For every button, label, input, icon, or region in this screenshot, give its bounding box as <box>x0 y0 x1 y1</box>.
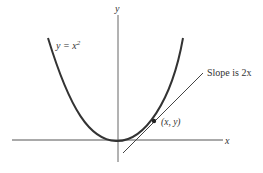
tangent-line <box>123 73 203 153</box>
y-axis-label: y <box>114 3 120 14</box>
parabola-diagram: y = x2 Slope is 2x (x, y) x y <box>0 0 263 173</box>
point-label: (x, y) <box>161 117 181 128</box>
x-axis-label: x <box>224 135 230 146</box>
tangent-label: Slope is 2x <box>207 67 251 78</box>
tangent-point <box>152 119 156 123</box>
curve-label: y = x2 <box>55 39 81 51</box>
